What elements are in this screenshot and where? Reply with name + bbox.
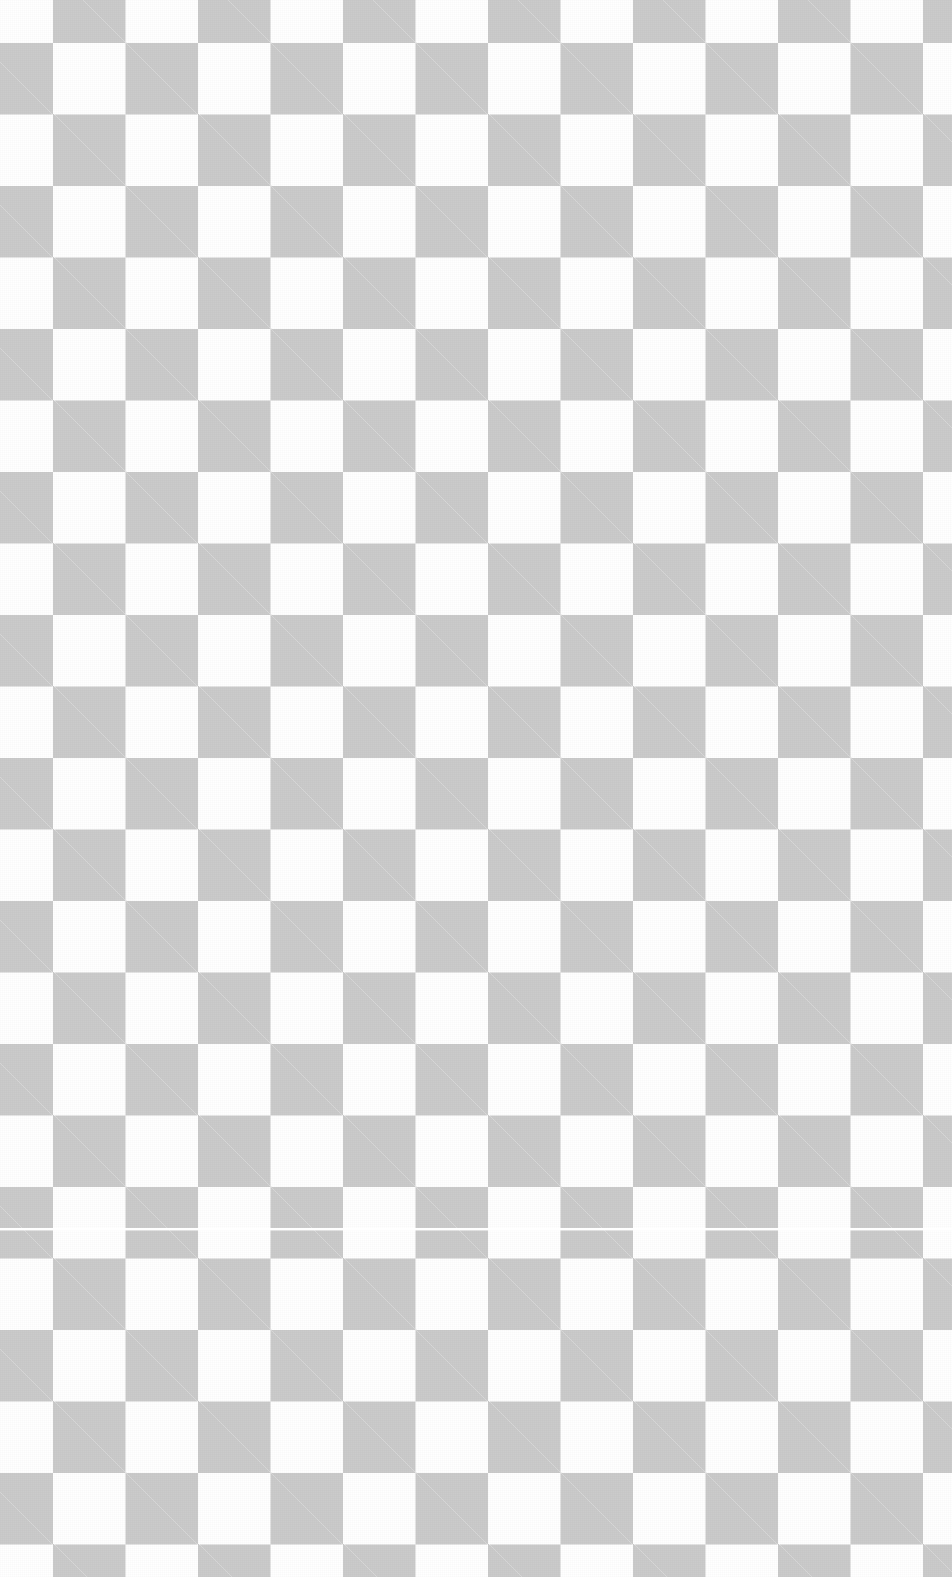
checkerboard-pattern: [0, 0, 952, 1577]
transparency-canvas[interactable]: [0, 0, 952, 1577]
